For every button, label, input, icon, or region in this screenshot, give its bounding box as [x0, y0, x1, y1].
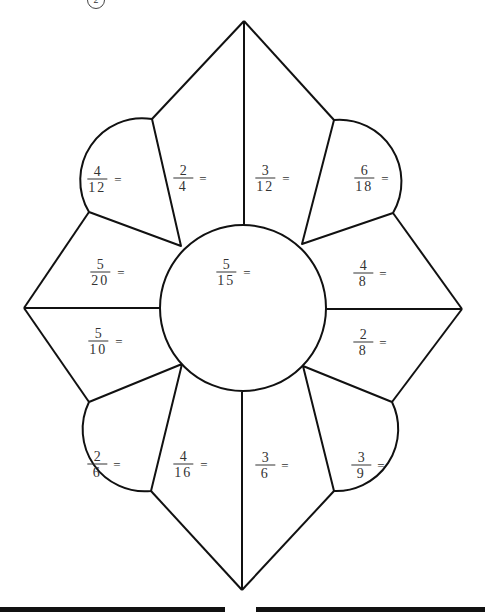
numerator: 5 [90, 257, 110, 273]
equals-sign: = [281, 457, 288, 473]
fraction-lower-right-diamond: 36 = [255, 450, 288, 481]
diamond-edge [242, 491, 334, 590]
denominator: 20 [89, 273, 111, 288]
equals-sign: = [113, 456, 120, 472]
equals-sign: = [379, 265, 386, 281]
diamond-edge [152, 21, 244, 119]
numerator: 2 [173, 163, 193, 179]
bottom-edge-bar-right [256, 607, 485, 612]
fraction-lower-left-diamond: 416 = [172, 449, 207, 480]
fraction-upper-right-petal: 618 = [353, 163, 388, 194]
fraction-upper-left-petal: 412 = [86, 164, 121, 195]
numerator: 3 [255, 450, 275, 466]
fraction-lower-left-petal: 26 = [87, 449, 120, 480]
numerator: 3 [351, 450, 371, 466]
denominator: 9 [355, 466, 368, 481]
equals-sign: = [381, 170, 388, 186]
numerator: 4 [87, 164, 107, 180]
denominator: 18 [353, 179, 375, 194]
numerator: 5 [216, 257, 236, 273]
equals-sign: = [200, 456, 207, 472]
fraction-lower-right-petal: 39 = [351, 450, 384, 481]
numerator: 5 [88, 326, 108, 342]
denominator: 12 [254, 179, 276, 194]
fraction-center: 5 15 = [215, 257, 250, 288]
diamond-edge [244, 21, 334, 120]
flower-outline-diagram [0, 0, 485, 612]
fraction-flower-worksheet: 2 5 15 [0, 0, 485, 612]
denominator: 15 [215, 273, 237, 288]
equals-sign: = [115, 333, 122, 349]
denominator: 4 [177, 179, 190, 194]
bottom-edge-bar-left [0, 607, 225, 612]
numerator: 3 [255, 163, 275, 179]
fraction-upper-right-diamond: 312 = [254, 163, 289, 194]
denominator: 8 [357, 343, 370, 358]
diamond-edge [24, 308, 89, 402]
numerator: 4 [173, 449, 193, 465]
denominator: 16 [172, 465, 194, 480]
equals-sign: = [379, 334, 386, 350]
denominator: 6 [259, 466, 272, 481]
equals-sign: = [243, 264, 250, 280]
diamond-edge [24, 212, 89, 308]
numerator: 6 [354, 163, 374, 179]
diamond-edge [393, 213, 462, 309]
numerator: 2 [353, 327, 373, 343]
denominator: 12 [86, 180, 108, 195]
numerator: 4 [353, 258, 373, 274]
denominator: 6 [91, 465, 104, 480]
equals-sign: = [114, 171, 121, 187]
denominator: 10 [87, 342, 109, 357]
denominator: 8 [357, 274, 370, 289]
diamond-edge [151, 491, 242, 590]
fraction-right-upper-diamond: 48 = [353, 258, 386, 289]
equals-sign: = [117, 264, 124, 280]
equals-sign: = [199, 170, 206, 186]
fraction-left-lower-diamond: 510 = [87, 326, 122, 357]
equals-sign: = [377, 457, 384, 473]
fraction-right-lower-diamond: 28 = [353, 327, 386, 358]
fraction-left-upper-diamond: 520 = [89, 257, 124, 288]
fraction-upper-left-diamond: 24 = [173, 163, 206, 194]
numerator: 2 [87, 449, 107, 465]
diamond-edge [392, 309, 462, 402]
center-circle [160, 225, 326, 391]
equals-sign: = [282, 170, 289, 186]
